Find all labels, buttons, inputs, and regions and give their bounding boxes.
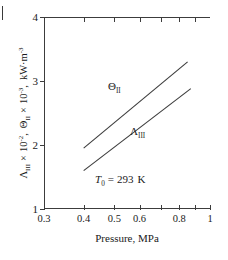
x-axis-title: Pressure, MPa — [44, 232, 210, 244]
x-tick-label: 0.4 — [77, 214, 90, 225]
y-axis-times-1: × — [18, 155, 29, 161]
y-axis-theta-subscript: II — [24, 116, 31, 121]
y-axis-power-2-exponent: -3 — [17, 88, 24, 94]
plot-area: 4 3 2 1 0.3 0.4 0.5 — [44, 17, 210, 209]
x-tick-label: 0.5 — [108, 214, 121, 225]
x-tick-label: 0.8 — [173, 214, 186, 225]
y-axis-times-2: × — [18, 107, 29, 113]
y-axis-units-base: kW·m — [18, 53, 29, 80]
curve-label-theta-symbol: Θ — [108, 80, 116, 92]
annotation-equals: = — [108, 173, 114, 185]
curve-label-lambda-subscript: III — [138, 132, 145, 140]
y-axis-title: ΛIII×10-2,ΘII×10-3,kW·m-3 — [18, 17, 36, 209]
y-axis-lambda-subscript: III — [24, 164, 31, 171]
curve-label-lambda-III: ΛIII — [130, 125, 145, 137]
x-tick-label: 0.6 — [133, 214, 146, 225]
figure-container: 4 3 2 1 0.3 0.4 0.5 — [0, 0, 228, 260]
annotation-reference-temperature: T0=293K — [95, 173, 145, 185]
y-axis-power-2-base: 10 — [18, 94, 29, 105]
y-axis-comma-2: , — [18, 85, 29, 88]
y-axis-power-1-exponent: -2 — [17, 136, 24, 142]
y-axis-lambda-symbol: Λ — [18, 171, 29, 179]
x-tick-label: 1 — [207, 214, 212, 225]
y-axis-power-1-base: 10 — [18, 142, 29, 153]
annotation-unit: K — [137, 173, 145, 185]
curve-label-theta-II: ΘII — [108, 80, 121, 92]
curve-label-lambda-symbol: Λ — [130, 125, 138, 137]
annotation-value: 293 — [117, 173, 134, 185]
y-axis-units-exponent: -3 — [17, 47, 24, 53]
scan-edge-mark — [2, 6, 3, 20]
y-axis-theta-symbol: Θ — [18, 121, 29, 129]
x-tick-label: 0.3 — [37, 214, 50, 225]
curve-label-theta-subscript: II — [116, 87, 121, 95]
y-axis-comma-1: , — [18, 133, 29, 136]
x-tick-mark — [210, 205, 211, 210]
annotation-subscript: 0 — [101, 180, 105, 188]
